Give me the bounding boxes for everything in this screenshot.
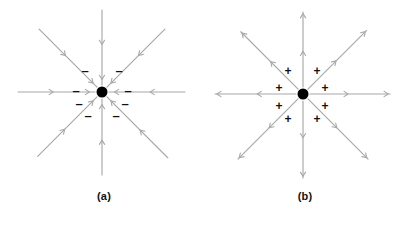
- ray-up-left: [241, 32, 298, 89]
- plus-sign-1: +: [284, 64, 291, 78]
- ray-up-right-shaft: [308, 30, 367, 89]
- ray-down-right: [308, 99, 368, 159]
- ray-up-left-shaft: [241, 32, 298, 89]
- ray-left: [18, 89, 95, 94]
- minus-sign-5: –: [75, 96, 82, 111]
- ray-down: [300, 101, 305, 178]
- ray-left: [215, 91, 296, 96]
- ray-down-left-shaft: [38, 97, 97, 156]
- minus-sign-8: –: [112, 108, 119, 123]
- minus-sign-2: –: [115, 63, 122, 78]
- ray-down: [99, 99, 104, 175]
- minus-sign-6: –: [121, 96, 128, 111]
- ray-down-right-shaft: [308, 99, 368, 159]
- plus-sign-4: +: [321, 81, 328, 95]
- plus-sign-8: +: [313, 112, 320, 126]
- field-line-diagram-svg: –––––––– ++++++++: [0, 0, 407, 226]
- panel-a-field-group: ––––––––: [18, 10, 185, 175]
- minus-sign-1: –: [81, 63, 88, 78]
- ray-down-left-shaft: [238, 99, 298, 159]
- ray-up: [99, 10, 104, 85]
- plus-sign-6: +: [321, 99, 328, 113]
- figure-root: –––––––– ++++++++ (a) (b): [0, 0, 407, 226]
- positive-point-charge: [298, 89, 309, 100]
- panel-b-caption: (b): [275, 190, 335, 202]
- plus-sign-7: +: [284, 112, 291, 126]
- plus-sign-2: +: [313, 64, 320, 78]
- ray-up-right: [308, 30, 367, 89]
- ray-down-left: [238, 99, 298, 159]
- negative-point-charge: [97, 87, 108, 98]
- panel-a-caption: (a): [74, 190, 134, 202]
- plus-sign-5: +: [275, 99, 282, 113]
- ray-down-right: [107, 97, 168, 158]
- ray-up: [300, 12, 305, 87]
- ray-down-left: [38, 97, 97, 156]
- plus-sign-3: +: [275, 81, 282, 95]
- ray-right: [109, 89, 185, 94]
- ray-down-right-shaft: [107, 97, 168, 158]
- minus-sign-7: –: [84, 108, 91, 123]
- panel-b-field-group: ++++++++: [215, 12, 390, 178]
